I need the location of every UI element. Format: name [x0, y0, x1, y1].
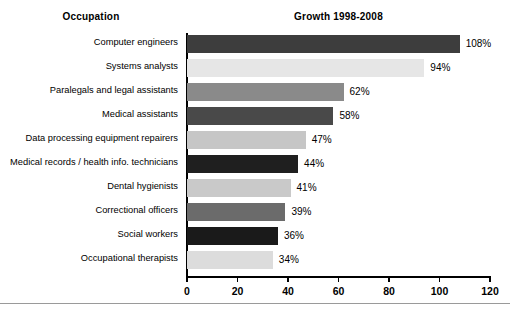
- category-label: Social workers: [0, 229, 178, 240]
- category-label: Systems analysts: [0, 61, 178, 72]
- bar-row: Systems analysts94%: [0, 57, 510, 81]
- bar: [187, 131, 306, 149]
- bar-row: Correctional officers39%: [0, 201, 510, 225]
- bar: [187, 83, 344, 101]
- x-axis-tick: [388, 276, 390, 282]
- bar-value-label: 36%: [284, 230, 304, 242]
- bar: [187, 59, 424, 77]
- category-label: Correctional officers: [0, 205, 178, 216]
- bar-value-label: 41%: [297, 182, 317, 194]
- category-label: Computer engineers: [0, 37, 178, 48]
- bar-value-label: 47%: [312, 134, 332, 146]
- bottom-divider: [0, 303, 510, 304]
- bar: [187, 227, 278, 245]
- bar-row: Computer engineers108%: [0, 33, 510, 57]
- bar-value-label: 58%: [339, 110, 359, 122]
- x-axis-tick-label: 40: [268, 285, 308, 297]
- category-label: Occupational therapists: [0, 253, 178, 264]
- x-axis-tick-label: 60: [319, 285, 359, 297]
- bar: [187, 203, 285, 221]
- bar-row: Occupational therapists34%: [0, 249, 510, 273]
- bar-row: Data processing equipment repairers47%: [0, 129, 510, 153]
- category-label: Paralegals and legal assistants: [0, 85, 178, 96]
- bar: [187, 179, 291, 197]
- bar-value-label: 108%: [466, 38, 492, 50]
- category-label: Medical assistants: [0, 109, 178, 120]
- bar-row: Paralegals and legal assistants62%: [0, 81, 510, 105]
- bar: [187, 251, 273, 269]
- category-label: Data processing equipment repairers: [0, 133, 178, 144]
- bar: [187, 35, 460, 53]
- bar-row: Social workers36%: [0, 225, 510, 249]
- bar-row: Dental hygienists41%: [0, 177, 510, 201]
- bar-row: Medical records / health info. technicia…: [0, 153, 510, 177]
- bar-value-label: 62%: [350, 86, 370, 98]
- bar-value-label: 39%: [291, 206, 311, 218]
- x-axis-tick: [237, 276, 239, 282]
- bar: [187, 107, 333, 125]
- bar-value-label: 44%: [304, 158, 324, 170]
- x-axis-tick: [287, 276, 289, 282]
- x-axis-tick: [439, 276, 441, 282]
- growth-column-header: Growth 1998-2008: [187, 11, 490, 22]
- x-axis-tick: [186, 276, 188, 282]
- bar-chart: Occupation Growth 1998-2008 Computer eng…: [0, 0, 510, 314]
- x-axis-tick: [489, 276, 491, 282]
- occupation-column-header: Occupation: [0, 11, 182, 22]
- x-axis-tick-label: 20: [218, 285, 258, 297]
- bar: [187, 155, 298, 173]
- x-axis-tick-label: 0: [167, 285, 207, 297]
- x-axis-tick-label: 100: [420, 285, 460, 297]
- x-axis: 020406080100120: [0, 276, 510, 314]
- x-axis-tick: [338, 276, 340, 282]
- category-label: Dental hygienists: [0, 181, 178, 192]
- category-label: Medical records / health info. technicia…: [0, 157, 178, 168]
- x-axis-tick-label: 120: [470, 285, 510, 297]
- bar-value-label: 34%: [279, 254, 299, 266]
- bar-value-label: 94%: [430, 62, 450, 74]
- x-axis-tick-label: 80: [369, 285, 409, 297]
- bar-row: Medical assistants58%: [0, 105, 510, 129]
- plot-area: Computer engineers108%Systems analysts94…: [0, 33, 510, 276]
